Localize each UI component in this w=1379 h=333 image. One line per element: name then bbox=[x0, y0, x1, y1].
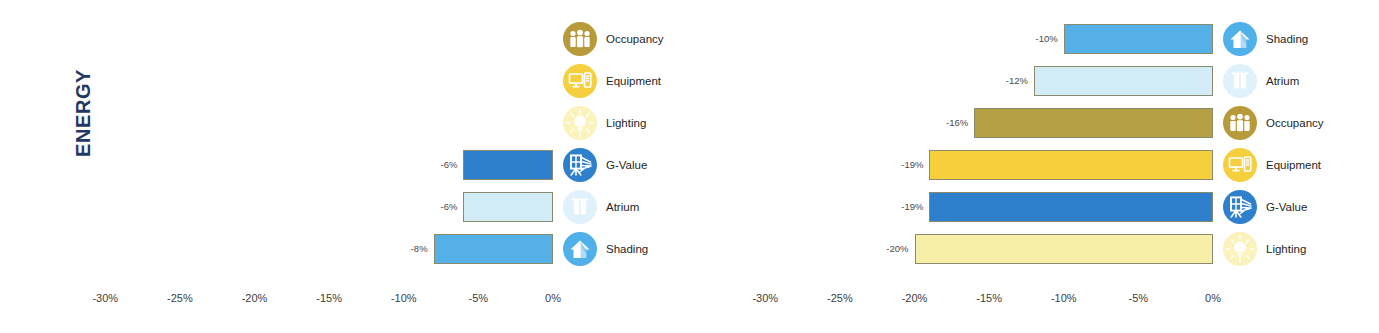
shading-icon bbox=[1223, 22, 1257, 56]
lighting-icon bbox=[563, 106, 597, 140]
bar-shading[interactable] bbox=[1064, 24, 1213, 54]
legend-item-shading[interactable]: Shading bbox=[563, 228, 648, 270]
legend-item-label: Occupancy bbox=[1266, 116, 1324, 130]
bar-row: -20%Lighting bbox=[720, 228, 1360, 270]
equipment-icon bbox=[1223, 148, 1257, 182]
energy-sensitivity-figure: ENERGY OccupancyEquipmentLighting-6%G-Va… bbox=[0, 0, 1379, 333]
bar-value-label: -6% bbox=[419, 198, 457, 216]
x-tick-label: -25% bbox=[805, 290, 875, 306]
bar-row: -19%Equipment bbox=[720, 144, 1360, 186]
bar-atrium[interactable] bbox=[1034, 66, 1213, 96]
x-tick-label: -15% bbox=[954, 290, 1024, 306]
legend-item-lighting[interactable]: Lighting bbox=[563, 102, 646, 144]
x-tick-label: -5% bbox=[443, 290, 513, 306]
x-tick-label: -30% bbox=[730, 290, 800, 306]
bar-equipment[interactable] bbox=[929, 150, 1213, 180]
legend-item-label: G-Value bbox=[1266, 200, 1307, 214]
occupancy-icon bbox=[563, 22, 597, 56]
bar-value-label: -10% bbox=[1020, 30, 1058, 48]
left-x-axis: -30%-25%-20%-15%-10%-5%0% bbox=[60, 290, 680, 312]
legend-item-g-value[interactable]: G-Value bbox=[1223, 186, 1307, 228]
equipment-icon bbox=[563, 64, 597, 98]
legend-item-g-value[interactable]: G-Value bbox=[563, 144, 647, 186]
bar-value-label: -19% bbox=[885, 198, 923, 216]
bar-value-label: -20% bbox=[871, 240, 909, 258]
bar-row: -6%G-Value bbox=[60, 144, 680, 186]
legend-item-atrium[interactable]: Atrium bbox=[563, 186, 639, 228]
x-tick-label: -25% bbox=[145, 290, 215, 306]
bar-value-label: -16% bbox=[930, 114, 968, 132]
occupancy-icon bbox=[1223, 106, 1257, 140]
right-plot-area: -10%Shading-12%Atrium-16%Occupancy-19%Eq… bbox=[720, 14, 1360, 276]
legend-item-label: Equipment bbox=[606, 74, 661, 88]
x-tick-label: -20% bbox=[220, 290, 290, 306]
x-tick-label: -10% bbox=[1029, 290, 1099, 306]
legend-item-equipment[interactable]: Equipment bbox=[563, 60, 661, 102]
legend-item-label: G-Value bbox=[606, 158, 647, 172]
lighting-icon bbox=[1223, 232, 1257, 266]
legend-item-label: Equipment bbox=[1266, 158, 1321, 172]
x-tick-label: -5% bbox=[1103, 290, 1173, 306]
legend-item-lighting[interactable]: Lighting bbox=[1223, 228, 1306, 270]
x-tick-label: 0% bbox=[518, 290, 588, 306]
bar-value-label: -12% bbox=[990, 72, 1028, 90]
legend-item-label: Lighting bbox=[1266, 242, 1306, 256]
legend-item-atrium[interactable]: Atrium bbox=[1223, 60, 1299, 102]
x-tick-label: -15% bbox=[294, 290, 364, 306]
energy-left-chart-panel: OccupancyEquipmentLighting-6%G-Value-6%A… bbox=[60, 0, 680, 333]
bar-row: -6%Atrium bbox=[60, 186, 680, 228]
bar-value-label: -19% bbox=[885, 156, 923, 174]
legend-item-equipment[interactable]: Equipment bbox=[1223, 144, 1321, 186]
bar-atrium[interactable] bbox=[463, 192, 553, 222]
legend-item-label: Shading bbox=[1266, 32, 1308, 46]
bar-row: -12%Atrium bbox=[720, 60, 1360, 102]
bar-row: -10%Shading bbox=[720, 18, 1360, 60]
legend-item-shading[interactable]: Shading bbox=[1223, 18, 1308, 60]
x-tick-label: -10% bbox=[369, 290, 439, 306]
bar-row: Lighting bbox=[60, 102, 680, 144]
bar-row: Equipment bbox=[60, 60, 680, 102]
shading-icon bbox=[563, 232, 597, 266]
legend-item-occupancy[interactable]: Occupancy bbox=[563, 18, 664, 60]
bar-row: -8%Shading bbox=[60, 228, 680, 270]
legend-item-label: Atrium bbox=[1266, 74, 1299, 88]
bar-occupancy[interactable] bbox=[974, 108, 1213, 138]
bar-row: -16%Occupancy bbox=[720, 102, 1360, 144]
bar-row: Occupancy bbox=[60, 18, 680, 60]
right-x-axis: -30%-25%-20%-15%-10%-5%0% bbox=[720, 290, 1360, 312]
bar-shading[interactable] bbox=[434, 234, 553, 264]
atrium-icon bbox=[563, 190, 597, 224]
bar-value-label: -6% bbox=[419, 156, 457, 174]
g-value-icon bbox=[563, 148, 597, 182]
bar-value-label: -8% bbox=[390, 240, 428, 258]
g-value-icon bbox=[1223, 190, 1257, 224]
x-tick-label: -20% bbox=[880, 290, 950, 306]
left-plot-area: OccupancyEquipmentLighting-6%G-Value-6%A… bbox=[60, 14, 680, 276]
bar-lighting[interactable] bbox=[915, 234, 1213, 264]
energy-right-chart-panel: -10%Shading-12%Atrium-16%Occupancy-19%Eq… bbox=[720, 0, 1360, 333]
legend-item-occupancy[interactable]: Occupancy bbox=[1223, 102, 1324, 144]
bar-g-value[interactable] bbox=[929, 192, 1213, 222]
x-tick-label: -30% bbox=[70, 290, 140, 306]
bar-row: -19%G-Value bbox=[720, 186, 1360, 228]
legend-item-label: Occupancy bbox=[606, 32, 664, 46]
atrium-icon bbox=[1223, 64, 1257, 98]
bar-g-value[interactable] bbox=[463, 150, 553, 180]
legend-item-label: Shading bbox=[606, 242, 648, 256]
x-tick-label: 0% bbox=[1178, 290, 1248, 306]
legend-item-label: Lighting bbox=[606, 116, 646, 130]
legend-item-label: Atrium bbox=[606, 200, 639, 214]
